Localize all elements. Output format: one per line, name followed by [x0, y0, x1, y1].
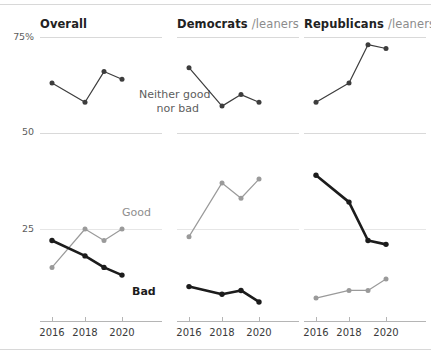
- x-tick-2020: [386, 317, 387, 321]
- y-axis-label-25: 25: [4, 223, 34, 234]
- x-axis-label-2020: 2020: [373, 327, 398, 338]
- gridline-75: [304, 37, 426, 38]
- x-axis-label-2016: 2016: [176, 327, 201, 338]
- x-axis-label-2016: 2016: [39, 327, 64, 338]
- x-tick-2016: [316, 317, 317, 321]
- x-axis-line: [177, 321, 299, 322]
- x-tick-2018: [222, 317, 223, 321]
- panel-title-republicans-sub: /leaners: [388, 17, 431, 31]
- panel-title-republicans: Republicans /leaners: [304, 17, 431, 31]
- panel-title-republicans-main: Republicans: [304, 17, 384, 31]
- gridline-25: [304, 229, 426, 230]
- panel-democrats: Democrats /leaners: [173, 0, 303, 353]
- gridline-50: [40, 133, 162, 134]
- gridline-50: [304, 133, 426, 134]
- x-tick-2020: [259, 317, 260, 321]
- x-axis-label-2018: 2018: [209, 327, 234, 338]
- x-axis-label-2016: 2016: [303, 327, 328, 338]
- panel-title-democrats-main: Democrats: [177, 17, 248, 31]
- panel-title-overall-main: Overall: [40, 17, 87, 31]
- x-axis-line: [304, 321, 426, 322]
- gridline-25: [40, 229, 162, 230]
- chart-container: 75% 50 25 Overall Neither good nor bad G…: [0, 0, 431, 353]
- x-axis-label-2020: 2020: [109, 327, 134, 338]
- gridline-75: [40, 37, 162, 38]
- x-axis-label-2020: 2020: [246, 327, 271, 338]
- x-tick-2018: [349, 317, 350, 321]
- series-label-bad: Bad: [132, 285, 156, 299]
- x-tick-2020: [122, 317, 123, 321]
- x-tick-2016: [189, 317, 190, 321]
- y-axis-label-50: 50: [4, 126, 34, 137]
- gridline-50: [177, 133, 299, 134]
- panel-overall: Overall Neither good nor bad Good Bad: [36, 0, 166, 353]
- x-tick-2016: [52, 317, 53, 321]
- gridline-75: [177, 37, 299, 38]
- x-axis-label-2018: 2018: [336, 327, 361, 338]
- x-tick-2018: [85, 317, 86, 321]
- panel-title-democrats-sub: /leaners: [252, 17, 299, 31]
- y-axis-label-75: 75%: [4, 31, 34, 42]
- series-label-good: Good: [122, 206, 151, 220]
- gridline-25: [177, 229, 299, 230]
- x-axis-line: [40, 321, 162, 322]
- x-axis-label-2018: 2018: [72, 327, 97, 338]
- panel-republicans: Republicans /leaners: [300, 0, 430, 353]
- panel-title-democrats: Democrats /leaners: [177, 17, 299, 31]
- panel-title-overall: Overall: [40, 17, 87, 31]
